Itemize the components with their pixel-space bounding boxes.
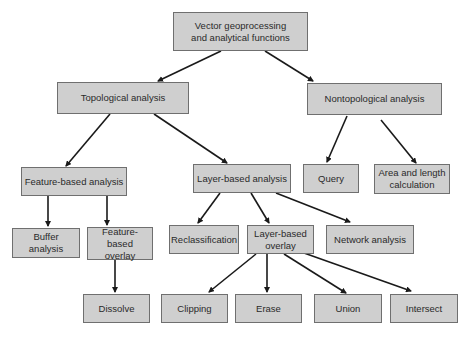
node-label-line: Layer-based — [254, 228, 307, 240]
node-layer-based-analysis: Layer-based analysis — [193, 164, 291, 193]
geoprocessing-hierarchy-diagram: Vector geoprocessingand analytical funct… — [0, 0, 467, 338]
arrow-topo-to-feat — [66, 114, 110, 166]
node-network-analysis: Network analysis — [326, 225, 414, 254]
node-label: Layer-based analysis — [197, 173, 287, 185]
node-label-line: Area and length — [378, 167, 445, 179]
node-label: Feature-based analysis — [25, 176, 124, 188]
node-label: Erase — [256, 303, 281, 315]
node-topological-analysis: Topological analysis — [57, 82, 189, 114]
node-intersect: Intersect — [390, 294, 458, 323]
node-label: Nontopological analysis — [325, 93, 425, 105]
node-label-line: and analytical functions — [191, 32, 290, 44]
arrow-root-to-nontopo — [265, 51, 313, 81]
node-query: Query — [303, 164, 359, 193]
node-feature-based-overlay: Feature-basedoverlay — [87, 227, 153, 260]
node-erase: Erase — [235, 294, 302, 323]
node-layer-based-overlay: Layer-basedoverlay — [247, 225, 314, 254]
node-dissolve: Dissolve — [83, 294, 150, 323]
node-label-line: calculation — [378, 179, 445, 191]
node-label: Union — [336, 303, 361, 315]
node-buffer-analysis: Buffer analysis — [12, 228, 80, 258]
arrow-layer-to-layerover — [251, 193, 269, 223]
arrow-nontopo-to-area — [381, 120, 416, 163]
node-label-line: overlay — [254, 240, 307, 252]
node-reclassification: Reclassification — [169, 225, 239, 254]
arrow-layerover-to-union — [284, 254, 346, 293]
node-label: Dissolve — [99, 303, 135, 315]
node-label: Network analysis — [334, 234, 406, 246]
node-label: Clipping — [177, 303, 211, 315]
arrow-layerover-to-clipping — [209, 254, 256, 292]
node-vector-geoprocessing: Vector geoprocessingand analytical funct… — [173, 12, 308, 51]
node-label-line: Feature-based — [90, 226, 150, 250]
node-label-line: Vector geoprocessing — [191, 20, 290, 32]
node-label-line: overlay — [90, 250, 150, 262]
node-label: Intersect — [406, 303, 442, 315]
node-label: Topological analysis — [81, 92, 166, 104]
node-area-length-calculation: Area and lengthcalculation — [374, 164, 450, 194]
arrow-nontopo-to-query — [327, 116, 347, 162]
arrow-layer-to-reclass — [198, 193, 220, 223]
node-label: Reclassification — [171, 234, 237, 246]
node-feature-based-analysis: Feature-based analysis — [21, 167, 127, 196]
node-label: Buffer analysis — [15, 231, 77, 255]
arrow-root-to-topo — [158, 51, 221, 81]
arrow-layer-to-network — [276, 193, 350, 222]
node-union: Union — [314, 294, 382, 323]
node-label: Query — [318, 173, 344, 185]
node-clipping: Clipping — [161, 294, 228, 323]
node-nontopological-analysis: Nontopological analysis — [307, 83, 442, 115]
arrow-topo-to-layer — [154, 114, 227, 163]
arrow-layerover-to-intersect — [304, 253, 411, 291]
